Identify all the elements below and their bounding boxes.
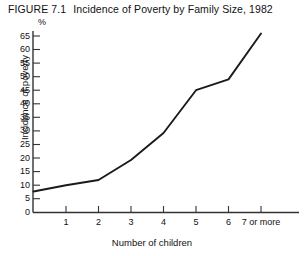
x-axis-ticks (66, 206, 261, 213)
y-tick-label-15: 15 (6, 167, 30, 176)
y-tick-label-55: 55 (6, 59, 30, 68)
y-tick-label-65: 65 (6, 32, 30, 41)
figure-container: FIGURE 7.1Incidence of Poverty by Family… (0, 0, 304, 256)
y-tick-label-40: 40 (6, 99, 30, 108)
y-tick-label-35: 35 (6, 113, 30, 122)
x-tick-label-2: 2 (91, 218, 107, 227)
x-tick-label-4: 4 (156, 218, 172, 227)
y-tick-label-20: 20 (6, 154, 30, 163)
y-tick-label-5: 5 (6, 194, 30, 203)
poverty-incidence-line (34, 34, 262, 192)
x-tick-label-1: 1 (58, 218, 74, 227)
y-tick-label-45: 45 (6, 86, 30, 95)
y-tick-label-60: 60 (6, 45, 30, 54)
x-tick-label-7-or-more: 7 or more (234, 218, 288, 227)
y-tick-label-0: 0 (6, 208, 30, 217)
y-tick-label-10: 10 (6, 181, 30, 190)
y-tick-label-50: 50 (6, 72, 30, 81)
x-tick-label-3: 3 (123, 218, 139, 227)
y-tick-label-30: 30 (6, 126, 30, 135)
x-tick-label-5: 5 (188, 218, 204, 227)
y-tick-label-25: 25 (6, 140, 30, 149)
y-axis-ticks (33, 36, 40, 199)
axis-lines (33, 31, 299, 213)
